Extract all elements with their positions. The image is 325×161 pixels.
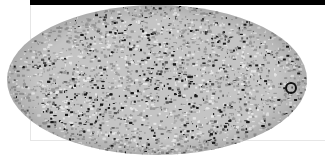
texture-speck bbox=[224, 147, 226, 149]
texture-speck bbox=[183, 154, 185, 156]
sky-map bbox=[0, 0, 325, 161]
texture-speck bbox=[183, 154, 185, 156]
texture-speck bbox=[168, 155, 171, 156]
texture-speck bbox=[224, 147, 226, 149]
sky-edge-shading bbox=[7, 5, 307, 155]
texture-speck bbox=[212, 150, 215, 152]
texture-speck bbox=[198, 152, 200, 154]
texture-speck bbox=[306, 90, 307, 92]
texture-speck bbox=[212, 150, 215, 152]
texture-speck bbox=[301, 101, 304, 102]
